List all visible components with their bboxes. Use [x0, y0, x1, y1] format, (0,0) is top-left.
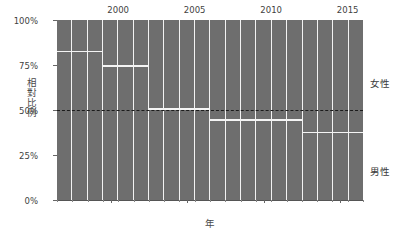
y-axis-ticks: 100% 75% 50% 25% 0%	[4, 0, 38, 238]
y-tick-label-75: 75%	[4, 61, 38, 71]
y-tick-label-25: 25%	[4, 151, 38, 161]
legend-female: 女性	[370, 76, 390, 90]
y-tick-label-100: 100%	[4, 16, 38, 26]
chart-figure: 相對比例 100% 75% 50% 25% 0% 2000 2005 2010 …	[0, 0, 415, 238]
y-tick-label-50: 50%	[4, 106, 38, 116]
y-tick-label-0: 0%	[4, 196, 38, 206]
x-axis-ticks: 2000 2005 2010 2015 年	[57, 0, 363, 238]
x-tick-label-2010: 2010	[260, 5, 282, 15]
x-tick-label-2000: 2000	[107, 5, 129, 15]
legend-male: 男性	[370, 164, 390, 178]
x-tick-label-2005: 2005	[184, 5, 206, 15]
x-tick-mark	[363, 200, 364, 202]
x-tick-label-2015: 2015	[337, 5, 359, 15]
x-axis-label: 年	[57, 216, 363, 230]
